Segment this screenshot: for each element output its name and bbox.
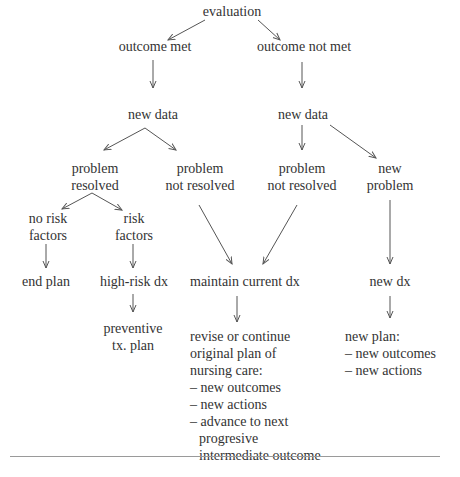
edge-evaluation-outcome-met xyxy=(168,20,205,40)
node-text-line: outcome met xyxy=(108,38,202,55)
node-no-risk-factors: no riskfactors xyxy=(18,210,78,244)
edge-new-data-new-problem xyxy=(330,125,376,158)
node-maintain-current-dx: maintain current dx xyxy=(190,273,320,290)
horizontal-rule xyxy=(10,456,440,457)
node-new-data-met: new data xyxy=(118,106,188,123)
node-text-line: progresive xyxy=(190,430,340,447)
node-text-line: factors xyxy=(104,227,164,244)
node-new-problem: newproblem xyxy=(360,160,420,194)
node-text-line: nursing care: xyxy=(190,362,340,379)
node-new-plan: new plan:– new outcomes– new actions xyxy=(345,328,455,379)
node-text-line: evaluation xyxy=(200,3,264,20)
node-text-line: – new actions xyxy=(190,396,340,413)
node-outcome-not-met: outcome not met xyxy=(250,38,358,55)
node-text-line: new data xyxy=(268,106,338,123)
node-text-line: revise or continue xyxy=(190,328,340,345)
node-text-line: preventive xyxy=(100,320,166,337)
node-text-line: new xyxy=(360,160,420,177)
node-text-line: – advance to next xyxy=(190,413,340,430)
node-evaluation: evaluation xyxy=(200,3,264,20)
node-text-line: end plan xyxy=(16,273,76,290)
node-new-dx: new dx xyxy=(365,273,415,290)
node-text-line: no risk xyxy=(18,210,78,227)
node-text-line: not resolved xyxy=(160,177,240,194)
edge-problem-resolved-no-risk xyxy=(62,193,92,209)
node-text-line: original plan of xyxy=(190,345,340,362)
node-text-line: new plan: xyxy=(345,328,455,345)
node-outcome-met: outcome met xyxy=(108,38,202,55)
node-text-line: tx. plan xyxy=(100,337,166,354)
node-text-line: problem xyxy=(60,160,130,177)
edge-new-data-problem-resolved xyxy=(104,128,145,150)
edge-problem-not-resolved-b-maintain xyxy=(263,205,297,264)
node-text-line: new dx xyxy=(365,273,415,290)
edge-problem-not-resolved-maintain xyxy=(199,205,232,264)
node-problem-not-resolved-a: problemnot resolved xyxy=(160,160,240,194)
node-preventive-plan: preventivetx. plan xyxy=(100,320,166,354)
node-text-line: maintain current dx xyxy=(190,273,320,290)
node-text-line: risk xyxy=(104,210,164,227)
edge-new-data-problem-not-resolved xyxy=(145,128,176,150)
node-text-line: resolved xyxy=(60,177,130,194)
node-high-risk-dx: high-risk dx xyxy=(90,273,178,290)
node-text-line: problem xyxy=(160,160,240,177)
node-text-line: – new outcomes xyxy=(190,379,340,396)
node-text-line: – new outcomes xyxy=(345,345,455,362)
edge-problem-resolved-risk xyxy=(92,193,122,210)
node-text-line: outcome not met xyxy=(250,38,358,55)
node-problem-resolved: problemresolved xyxy=(60,160,130,194)
node-revise-plan: revise or continueoriginal plan ofnursin… xyxy=(190,328,340,464)
node-text-line: factors xyxy=(18,227,78,244)
node-text-line: high-risk dx xyxy=(90,273,178,290)
node-new-data-not-met: new data xyxy=(268,106,338,123)
node-end-plan: end plan xyxy=(16,273,76,290)
node-text-line: new data xyxy=(118,106,188,123)
node-text-line: – new actions xyxy=(345,362,455,379)
node-text-line: problem xyxy=(360,177,420,194)
node-text-line: not resolved xyxy=(262,177,342,194)
node-text-line: problem xyxy=(262,160,342,177)
edge-evaluation-outcome-not-met xyxy=(258,20,280,40)
node-risk-factors: riskfactors xyxy=(104,210,164,244)
node-problem-not-resolved-b: problemnot resolved xyxy=(262,160,342,194)
